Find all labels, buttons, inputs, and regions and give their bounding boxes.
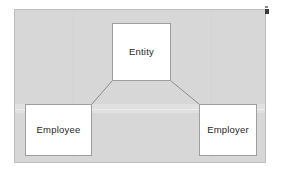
diagram-panel: Entity Employee Employer xyxy=(14,9,266,163)
node-employer-label: Employer xyxy=(207,125,249,135)
connector-entity-employer xyxy=(171,81,199,104)
node-entity[interactable]: Entity xyxy=(112,23,171,81)
corner-marker-dot-icon xyxy=(265,6,268,8)
corner-marker-icon xyxy=(265,9,269,14)
node-employer[interactable]: Employer xyxy=(199,104,257,156)
connector-entity-employee xyxy=(92,81,112,104)
node-employee-label: Employee xyxy=(37,125,81,135)
node-employee[interactable]: Employee xyxy=(25,104,92,156)
node-entity-label: Entity xyxy=(129,47,154,57)
